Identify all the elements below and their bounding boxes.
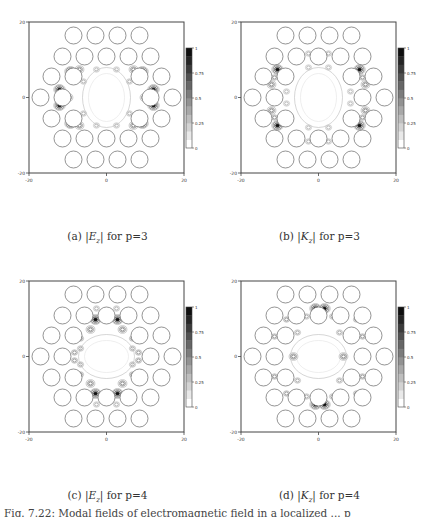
subfigure-caption: (a) |Ez| for p=3 — [0, 230, 215, 245]
dielectric-rod — [76, 130, 93, 147]
subfigure-label: (b) — [279, 230, 297, 242]
dielectric-rod — [299, 27, 316, 44]
dielectric-rod — [142, 348, 159, 365]
dielectric-rod — [343, 286, 360, 303]
dielectric-rod — [376, 348, 393, 365]
dielectric-rod — [332, 130, 349, 147]
y-tick-label: 20 — [231, 279, 237, 284]
contour-plot: -20020-2002000.250.50.751 — [212, 259, 427, 459]
dielectric-rod — [120, 48, 137, 65]
subfigure-caption: (b) |Kz| for p=3 — [212, 230, 427, 245]
y-tick-label: 0 — [234, 95, 237, 100]
dielectric-rod — [142, 48, 159, 65]
dielectric-rod — [131, 151, 148, 168]
dielectric-rod — [98, 307, 115, 324]
dielectric-rod — [266, 89, 283, 106]
dielectric-rod — [255, 110, 272, 127]
field-condition: | for p=3 — [312, 230, 360, 242]
x-tick-label: 0 — [105, 178, 108, 183]
dielectric-rod — [131, 369, 148, 386]
subfigure-label: (a) — [67, 230, 85, 242]
dielectric-rod — [255, 68, 272, 85]
dielectric-rod — [109, 286, 126, 303]
colorbar-tick-label: 0.5 — [407, 96, 414, 101]
x-tick-label: 20 — [181, 178, 187, 183]
x-tick-label: 20 — [181, 437, 187, 442]
dielectric-rod — [354, 89, 371, 106]
dielectric-rod — [288, 307, 305, 324]
colorbar: 00.250.50.751 — [186, 305, 204, 410]
colorbar: 00.250.50.751 — [398, 305, 416, 410]
field-condition: | for p=4 — [312, 489, 360, 501]
dielectric-rod — [54, 348, 71, 365]
contour-plot: -20020-2002000.250.50.751 — [0, 259, 215, 459]
dielectric-rod — [65, 369, 82, 386]
x-tick-label: 20 — [393, 178, 399, 183]
panel-a: -20020-2002000.250.50.751(a) |Ez| for p=… — [0, 0, 215, 245]
dielectric-rod — [321, 286, 338, 303]
y-tick-label: 20 — [19, 20, 25, 25]
dielectric-rod — [277, 27, 294, 44]
dielectric-rod — [321, 27, 338, 44]
dielectric-rod — [343, 110, 360, 127]
dielectric-rod — [354, 348, 371, 365]
dielectric-rod — [54, 130, 71, 147]
colorbar-tick-label: 0.5 — [407, 355, 414, 360]
colorbar-tick-label: 0.75 — [195, 330, 204, 335]
dielectric-rod — [109, 27, 126, 44]
y-tick-label: -20 — [18, 171, 25, 176]
dielectric-rod — [43, 369, 60, 386]
dielectric-rod — [266, 348, 283, 365]
dielectric-rod — [321, 151, 338, 168]
dielectric-rod — [277, 327, 294, 344]
dielectric-rod — [266, 389, 283, 406]
dielectric-rod — [343, 327, 360, 344]
dielectric-rod — [65, 327, 82, 344]
dielectric-rod — [87, 410, 104, 427]
subfigure-label: (c) — [68, 489, 85, 501]
dielectric-rod — [87, 27, 104, 44]
colorbar-tick-label: 1 — [195, 305, 198, 310]
dielectric-rod — [54, 89, 71, 106]
dielectric-rod — [277, 151, 294, 168]
dielectric-rod — [332, 48, 349, 65]
dielectric-rod — [43, 327, 60, 344]
dielectric-rod — [109, 151, 126, 168]
dielectric-rod — [87, 151, 104, 168]
y-tick-label: 0 — [234, 354, 237, 359]
field-quantity: |K — [297, 230, 308, 242]
y-tick-label: -20 — [230, 171, 237, 176]
plot-frame — [241, 22, 396, 173]
dielectric-rod — [266, 307, 283, 324]
dielectric-rod — [332, 307, 349, 324]
dielectric-rod — [131, 68, 148, 85]
dielectric-rod — [109, 410, 126, 427]
x-tick-label: -20 — [25, 437, 32, 442]
dielectric-rod — [354, 130, 371, 147]
dielectric-rod — [32, 348, 49, 365]
dielectric-rod — [299, 410, 316, 427]
dielectric-rod — [255, 369, 272, 386]
colorbar-tick-label: 1 — [407, 46, 410, 51]
colorbar-tick-label: 1 — [407, 305, 410, 310]
dielectric-rod — [299, 286, 316, 303]
dielectric-rod — [98, 48, 115, 65]
dielectric-rod — [131, 410, 148, 427]
y-tick-label: -20 — [18, 430, 25, 435]
colorbar-tick-label: 0 — [195, 146, 198, 151]
dielectric-rod — [54, 307, 71, 324]
plot-frame — [241, 281, 396, 432]
dielectric-rod — [120, 389, 137, 406]
dielectric-rod — [310, 307, 327, 324]
dielectric-rod — [266, 130, 283, 147]
dielectric-rod — [32, 89, 49, 106]
dielectric-rod — [54, 48, 71, 65]
dielectric-rod — [277, 410, 294, 427]
colorbar-tick-label: 0.5 — [195, 96, 202, 101]
dielectric-rod — [153, 327, 170, 344]
dielectric-rod — [332, 389, 349, 406]
dielectric-rod — [153, 68, 170, 85]
dielectric-rod — [65, 410, 82, 427]
dielectric-rod — [76, 307, 93, 324]
dielectric-rod — [153, 369, 170, 386]
